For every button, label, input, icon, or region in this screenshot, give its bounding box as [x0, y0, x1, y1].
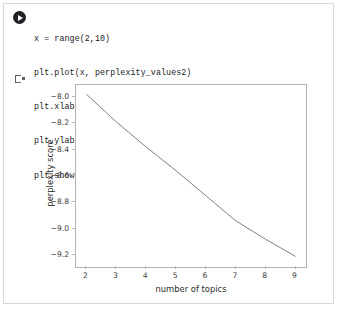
x-axis-label: number of topics — [75, 284, 307, 294]
y-tick-mark — [72, 201, 75, 202]
y-tick-mark — [72, 96, 75, 97]
x-tick-label: 5 — [173, 271, 178, 280]
x-tick-mark — [85, 266, 86, 269]
code-editor[interactable]: x = range(2,10) plt.plot(x, perplexity_v… — [4, 4, 335, 70]
x-tick-label: 2 — [83, 271, 88, 280]
y-axis-label: perplexity score — [45, 118, 55, 228]
output-marker-icon — [15, 74, 27, 86]
plot-axes-frame — [75, 84, 307, 268]
x-tick-mark — [115, 266, 116, 269]
x-tick-mark — [205, 266, 206, 269]
play-icon — [18, 15, 23, 21]
x-tick-mark — [265, 266, 266, 269]
y-tick-mark — [72, 228, 75, 229]
x-tick-mark — [175, 266, 176, 269]
plot-line-svg — [76, 85, 306, 267]
y-tick-mark — [72, 122, 75, 123]
y-tick-label: −8.0 — [31, 91, 69, 100]
run-cell-button[interactable] — [13, 11, 26, 24]
y-tick-mark — [72, 175, 75, 176]
x-tick-label: 4 — [143, 271, 148, 280]
code-line: x = range(2,10) — [34, 33, 191, 44]
y-tick-label: −9.2 — [31, 250, 69, 259]
x-tick-mark — [145, 266, 146, 269]
x-tick-mark — [295, 266, 296, 269]
output-caret-icon — [22, 77, 25, 80]
x-tick-label: 7 — [232, 271, 237, 280]
x-tick-label: 3 — [113, 271, 118, 280]
x-tick-mark — [235, 266, 236, 269]
x-tick-label: 8 — [262, 271, 267, 280]
notebook-cell: x = range(2,10) plt.plot(x, perplexity_v… — [3, 3, 334, 304]
output-box-icon — [15, 75, 21, 83]
x-tick-label: 9 — [292, 271, 297, 280]
matplotlib-figure: −8.0−8.2−8.4−8.6−8.8−9.0−9.2 23456789 nu… — [31, 76, 326, 300]
y-tick-mark — [72, 149, 75, 150]
y-tick-mark — [72, 254, 75, 255]
x-tick-label: 6 — [203, 271, 208, 280]
data-series-line — [86, 94, 295, 256]
